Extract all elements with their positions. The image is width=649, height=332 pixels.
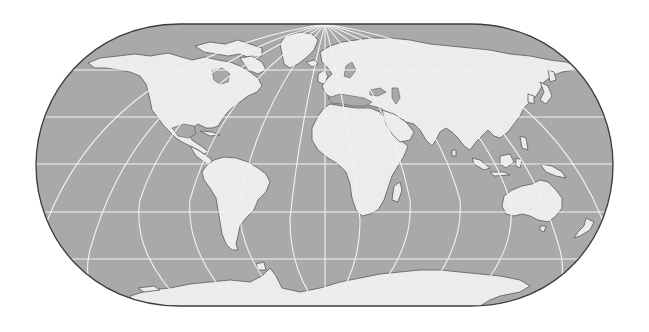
- world-map-svg: [0, 0, 649, 332]
- korea: [528, 94, 534, 104]
- world-map: [0, 0, 649, 332]
- sri-lanka: [452, 150, 456, 156]
